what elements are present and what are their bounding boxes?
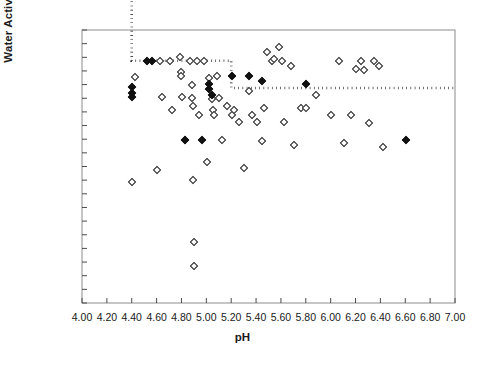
data-point-open (189, 102, 196, 109)
data-point-filled (302, 80, 309, 87)
scatter-plot-figure: Water Activity pH 1.000.980.960.940.920.… (0, 0, 485, 367)
data-point-open (379, 143, 386, 150)
data-point-open (158, 93, 165, 100)
data-point-open (347, 111, 354, 118)
data-point-open (290, 141, 297, 148)
data-point-open (128, 178, 135, 185)
data-point-filled (208, 91, 215, 98)
data-point-open (357, 57, 364, 64)
data-point-open (263, 48, 270, 55)
data-point-filled (198, 136, 205, 143)
plot-surface (0, 0, 485, 367)
data-point-filled (180, 136, 187, 143)
data-point-open (218, 136, 225, 143)
data-point-open (335, 57, 342, 64)
data-point-filled (128, 93, 135, 100)
data-point-open (166, 57, 173, 64)
data-point-filled (258, 77, 265, 84)
data-point-open (277, 57, 284, 64)
data-point-open (235, 118, 242, 125)
data-point-open (223, 102, 230, 109)
data-point-open (258, 137, 265, 144)
data-point-open (364, 119, 371, 126)
data-point-open (175, 52, 182, 59)
data-point-open (312, 91, 319, 98)
data-point-open (190, 262, 197, 269)
data-point-open (156, 57, 163, 64)
data-point-open (280, 118, 287, 125)
data-point-open (168, 106, 175, 113)
axes-layer (82, 30, 455, 303)
data-point-open (210, 111, 217, 118)
data-point-open (230, 106, 237, 113)
data-point-open (213, 72, 220, 79)
data-point-filled (245, 72, 252, 79)
data-point-open (188, 94, 195, 101)
data-point-open (190, 238, 197, 245)
data-point-open (327, 111, 334, 118)
data-point-open (359, 66, 366, 73)
data-point-filled (228, 72, 235, 79)
data-point-open (352, 65, 359, 72)
data-point-open (215, 94, 222, 101)
data-point-open (203, 158, 210, 165)
data-point-open (302, 104, 309, 111)
data-point-open (340, 138, 347, 145)
data-point-filled (402, 136, 409, 143)
data-point-open (260, 104, 267, 111)
data-point-open (270, 55, 277, 62)
data-point-open (275, 43, 282, 50)
data-point-open (189, 176, 196, 183)
data-point-open (253, 118, 260, 125)
data-point-open (195, 111, 202, 118)
data-point-open (374, 62, 381, 69)
data-point-open (200, 57, 207, 64)
data-point-open (131, 73, 138, 80)
data-point-open (178, 93, 185, 100)
data-point-open (287, 62, 294, 69)
data-point-open (177, 72, 184, 79)
data-point-open (185, 57, 192, 64)
data-point-open (245, 87, 252, 94)
data-point-open (240, 164, 247, 171)
data-point-filled (148, 57, 155, 64)
data-point-open (188, 81, 195, 88)
data-point-open (153, 166, 160, 173)
